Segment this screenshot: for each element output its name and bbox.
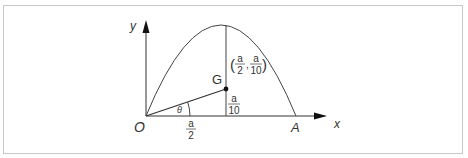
line-OG	[146, 89, 226, 116]
fraction-denominator: 2	[188, 130, 194, 141]
y-axis-label: y	[129, 19, 137, 33]
parabola-diagram: y x O A G θ a 2 a 10 ( a 2 , a 10 )	[0, 0, 468, 158]
parabola-curve	[146, 25, 296, 116]
fraction-a-over-10: a 10	[228, 93, 240, 116]
x-axis-arrow-icon	[314, 113, 327, 120]
G-coordinates: ( a 2 , a 10 )	[230, 53, 267, 76]
angle-theta-label: θ	[177, 105, 182, 115]
point-A-label: A	[290, 120, 300, 135]
separator: ,	[246, 59, 249, 70]
x-denominator: 2	[237, 65, 243, 76]
y-denominator: 10	[250, 65, 262, 76]
fraction-a-over-2: a 2	[186, 118, 196, 141]
point-G-label: G	[212, 72, 222, 87]
fraction-denominator: 10	[228, 105, 240, 116]
fraction-numerator: a	[231, 93, 237, 104]
x-axis-label: x	[333, 117, 341, 131]
x-numerator: a	[237, 53, 243, 64]
point-G	[224, 87, 229, 92]
angle-arc	[188, 102, 190, 116]
fraction-numerator: a	[188, 118, 194, 129]
close-paren: )	[262, 56, 267, 73]
y-numerator: a	[253, 53, 259, 64]
open-paren: (	[230, 56, 235, 73]
y-axis-arrow-icon	[143, 20, 150, 33]
origin-label: O	[134, 119, 145, 135]
